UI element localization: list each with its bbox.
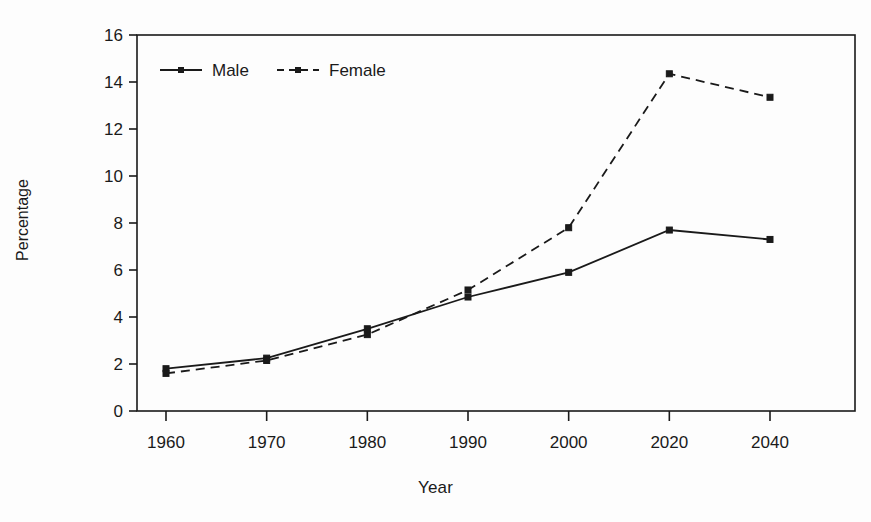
y-tick-label: 6 xyxy=(114,261,123,280)
data-point-marker-male xyxy=(566,269,572,275)
data-point-marker-female xyxy=(566,225,572,231)
x-tick-label: 1980 xyxy=(348,433,386,452)
x-axis-label-container: Year xyxy=(0,478,871,498)
legend-item-male-marker xyxy=(178,67,184,73)
chart-legend: MaleFemale xyxy=(160,61,386,80)
legend-item-female-marker xyxy=(295,67,301,73)
y-tick-label: 4 xyxy=(114,308,123,327)
y-tick-group: 0246810121416 xyxy=(104,26,137,421)
x-tick-label: 2000 xyxy=(550,433,588,452)
x-tick-label: 1970 xyxy=(248,433,286,452)
y-tick-label: 14 xyxy=(104,73,123,92)
data-point-marker-male xyxy=(767,236,773,242)
y-tick-label: 0 xyxy=(114,402,123,421)
series-group xyxy=(163,71,773,377)
y-tick-label: 10 xyxy=(104,167,123,186)
series-line-female xyxy=(166,74,770,374)
chart-figure: Percentage 0246810121416 196019701980199… xyxy=(0,0,871,522)
legend-item-female-label: Female xyxy=(329,61,386,80)
line-chart-plot: 0246810121416 19601970198019902000202020… xyxy=(0,0,871,522)
data-point-marker-female xyxy=(163,370,169,376)
y-tick-label: 16 xyxy=(104,26,123,45)
data-point-marker-male xyxy=(666,227,672,233)
y-tick-label: 2 xyxy=(114,355,123,374)
data-point-marker-female xyxy=(767,94,773,100)
x-tick-label: 1990 xyxy=(449,433,487,452)
data-point-marker-male xyxy=(364,326,370,332)
data-point-marker-female xyxy=(264,357,270,363)
data-point-marker-female xyxy=(666,71,672,77)
legend-item-male-label: Male xyxy=(212,61,249,80)
x-tick-label: 1960 xyxy=(147,433,185,452)
x-tick-group: 1960197019801990200020202040 xyxy=(147,411,789,452)
x-tick-label: 2020 xyxy=(650,433,688,452)
data-point-marker-female xyxy=(364,332,370,338)
data-point-marker-male xyxy=(465,294,471,300)
data-point-marker-female xyxy=(465,287,471,293)
y-tick-label: 8 xyxy=(114,214,123,233)
x-axis-label: Year xyxy=(418,478,453,497)
y-tick-label: 12 xyxy=(104,120,123,139)
x-tick-label: 2040 xyxy=(751,433,789,452)
